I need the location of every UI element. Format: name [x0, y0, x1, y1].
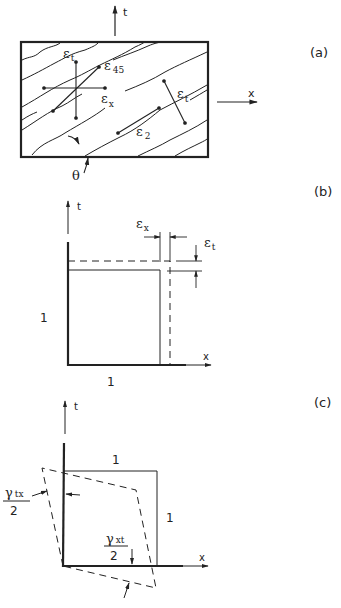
- svg-text:γxt: γxt: [106, 531, 125, 546]
- t-axis-label: t: [123, 6, 128, 19]
- x-axis-label: x: [248, 87, 255, 100]
- gamma-xt-fraction: γxt 2: [104, 531, 128, 563]
- eps-x-label: εx: [136, 216, 149, 233]
- t-axis-thick: [63, 443, 64, 567]
- x-axis-label: x: [203, 351, 209, 362]
- panel-a: t x: [21, 6, 328, 183]
- svg-text:2: 2: [110, 549, 118, 563]
- side-length-right: 1: [166, 511, 174, 525]
- gamma-tx-arrow-outer: [32, 491, 47, 496]
- eps-45-label: ε45: [104, 58, 124, 75]
- eps-2-label: ε2: [136, 124, 150, 141]
- svg-text:2: 2: [10, 504, 18, 518]
- svg-text:γtx: γtx: [5, 485, 23, 500]
- deformed-square: [68, 261, 170, 365]
- original-square: [68, 270, 160, 365]
- gamma-tx-arrow-inner: [66, 494, 80, 495]
- panel-b: t x εx εt 1 1 (b): [40, 184, 332, 389]
- side-length-bottom: 1: [107, 375, 115, 389]
- theta-pointer-arrow: [84, 158, 88, 173]
- panel-b-label: (b): [314, 184, 332, 199]
- t-axis-label: t: [74, 401, 78, 412]
- theta-arc-arrow: [68, 136, 79, 144]
- t-axis-label: t: [77, 201, 81, 212]
- gamma-xt-arrow-outer: [124, 583, 129, 598]
- panel-c-label: (c): [314, 395, 331, 410]
- panel-a-label: (a): [310, 45, 328, 60]
- theta-label: θ: [72, 168, 80, 183]
- gamma-tx-fraction: γtx 2: [3, 485, 30, 518]
- eps-t-label: εt: [204, 235, 216, 252]
- sheared-parallelogram: [42, 468, 156, 588]
- eps-t-label-top: εt: [63, 46, 75, 63]
- side-length-left: 1: [40, 311, 48, 325]
- eps-x-label: εx: [101, 91, 114, 109]
- panel-c: t x γtx 2 γxt 2 1 1 (c): [3, 395, 331, 598]
- x-axis-label: x: [199, 552, 205, 563]
- side-length-top: 1: [112, 453, 120, 467]
- eps-t-label-right: εt: [177, 86, 189, 104]
- strain-diagram-figure: t x: [0, 0, 341, 608]
